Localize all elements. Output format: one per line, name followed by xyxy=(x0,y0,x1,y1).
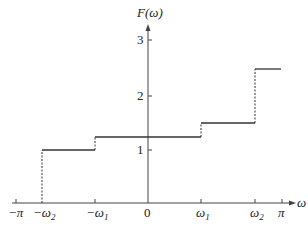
y-tick-2: 2 xyxy=(137,88,144,103)
x-tick-neg-omega1: −ω1 xyxy=(86,205,108,222)
y-ticks xyxy=(148,40,152,150)
x-tick-neg-pi: −π xyxy=(8,205,24,220)
x-tick-pi: π xyxy=(278,205,285,220)
y-axis-arrow-icon xyxy=(146,24,151,31)
x-tick-neg-omega2: −ω2 xyxy=(33,205,56,222)
step-function-plot: F(ω) ω 1 2 3 −π −ω2 −ω1 0 ω1 ω2 π xyxy=(0,0,308,226)
y-tick-1: 1 xyxy=(137,142,144,157)
x-tick-omega2: ω2 xyxy=(250,205,264,222)
x-tick-zero: 0 xyxy=(144,205,151,220)
x-ticks xyxy=(16,199,282,203)
chart-container: F(ω) ω 1 2 3 −π −ω2 −ω1 0 ω1 ω2 π xyxy=(0,0,308,226)
y-axis-label: F(ω) xyxy=(136,5,163,20)
x-axis-arrow-icon xyxy=(289,201,296,206)
step-segments xyxy=(42,69,281,150)
x-axis-label: ω xyxy=(297,195,306,210)
y-tick-3: 3 xyxy=(137,32,144,47)
x-tick-omega1: ω1 xyxy=(196,205,210,222)
